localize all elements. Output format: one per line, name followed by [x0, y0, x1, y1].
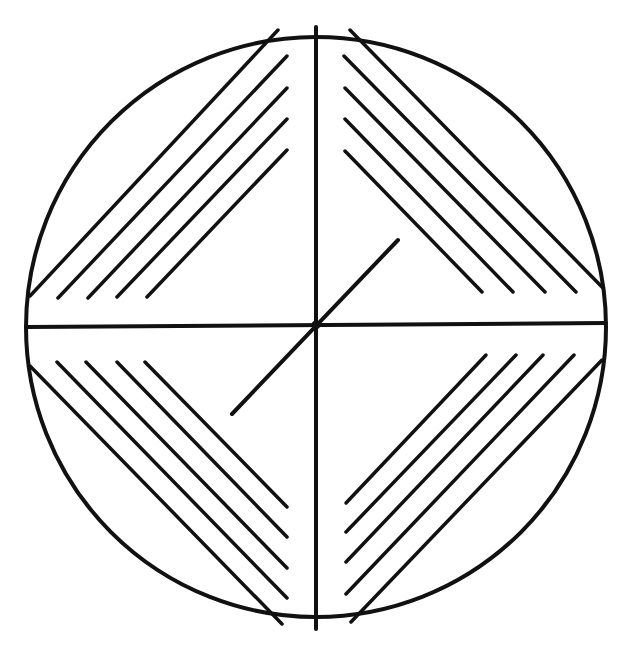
center-point: [312, 321, 320, 329]
hatch-line: [147, 150, 287, 297]
hatch-line: [346, 355, 486, 503]
hatch-line: [145, 362, 287, 507]
quadrant-bottom-right-hatching: [346, 355, 602, 622]
hatch-line: [346, 355, 574, 594]
hatch-line: [88, 88, 287, 298]
diagram-canvas: [0, 0, 621, 648]
quadrant-top-right-hatching: [344, 30, 603, 292]
hatch-line: [344, 56, 576, 292]
hatch-line: [351, 360, 602, 622]
hatch-line: [57, 362, 287, 598]
quadrant-bottom-left-hatching: [30, 362, 287, 624]
quadrant-top-left-hatching: [30, 30, 287, 298]
hatch-line: [58, 56, 287, 298]
hatch-line: [346, 355, 543, 562]
hatch-line: [345, 151, 482, 292]
hatched-circle-diagram: Circle divided into four quadrants by ve…: [0, 0, 621, 648]
